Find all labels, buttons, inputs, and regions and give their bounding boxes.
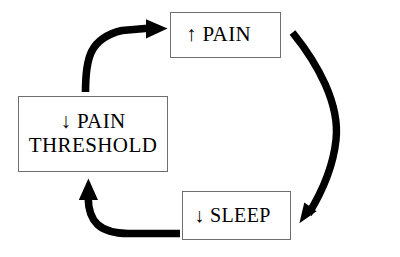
node-pain-threshold: ↓ PAIN THRESHOLD <box>18 96 168 172</box>
cycle-diagram: ↑ PAIN ↓ PAIN THRESHOLD ↓ SLEEP <box>0 0 400 257</box>
node-pain-label: ↑ PAIN <box>186 24 265 45</box>
arrow-pain-to-sleep <box>293 33 337 224</box>
node-sleep-label: ↓ SLEEP <box>194 205 279 225</box>
arrow-threshold-to-pain <box>86 19 168 92</box>
node-sleep: ↓ SLEEP <box>182 191 291 240</box>
node-pain-threshold-label: ↓ PAIN THRESHOLD <box>29 110 157 157</box>
arrow-sleep-to-threshold <box>79 179 180 234</box>
node-pain: ↑ PAIN <box>170 12 281 58</box>
